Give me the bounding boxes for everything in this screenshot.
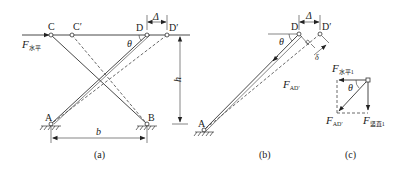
label-small-delta: δ: [315, 53, 319, 62]
node-D: [145, 33, 149, 37]
caption-c: (c): [345, 149, 356, 161]
label-theta-a: θ: [127, 38, 132, 49]
label-theta-b: θ: [279, 36, 284, 47]
member-ADprime-deformed: [204, 34, 320, 130]
node-C-prime: [70, 33, 74, 37]
truss-diagram: C C′ D D′ A B θ Δ h b F水平 (a): [0, 0, 404, 173]
label-force-horizontal1: F水平1: [331, 62, 354, 76]
label-D-prime: D′: [169, 22, 178, 33]
small-delta-ext-2: [322, 36, 329, 43]
label-D-prime-b: D′: [322, 21, 331, 32]
label-force-vertical1: F竖直1: [362, 114, 385, 127]
node-C: [49, 33, 53, 37]
small-delta-ext-1: [311, 44, 315, 48]
node-D-prime-b: [318, 32, 322, 36]
label-C-prime: C′: [73, 21, 82, 32]
node-D-b: [297, 32, 301, 36]
support-A: [40, 126, 61, 130]
theta-arc-c: [356, 80, 359, 88]
label-C: C: [48, 21, 55, 32]
label-force-ADprime-c: FAD′: [325, 114, 343, 127]
label-theta-c: θ: [348, 82, 353, 93]
support-A-b: [194, 132, 214, 136]
label-delta-b: Δ: [305, 10, 312, 21]
force-origin-node: [366, 78, 370, 82]
figure-a: C C′ D D′ A B θ Δ h b F水平 (a): [21, 11, 190, 161]
theta-arc-b: [289, 34, 292, 41]
figure-b: D D′ A θ Δ δ FAD′ (b): [194, 10, 331, 161]
label-B: B: [148, 112, 155, 123]
label-delta-a: Δ: [152, 11, 159, 22]
member-DA-outline: [54, 35, 150, 124]
label-h: h: [172, 77, 183, 82]
caption-b: (b): [259, 149, 271, 161]
label-force-ADprime-b: FAD′: [282, 78, 300, 91]
support-B: [136, 126, 157, 130]
caption-a: (a): [94, 149, 105, 161]
label-D: D: [136, 22, 143, 33]
figure-c: F水平1 θ FAD′ F竖直1 (c): [325, 62, 385, 161]
label-force-horizontal: F水平: [21, 38, 41, 52]
label-A-b: A: [198, 118, 206, 129]
label-A: A: [45, 112, 53, 123]
label-b: b: [96, 126, 101, 137]
node-D-prime: [165, 33, 169, 37]
label-D-b: D: [291, 21, 298, 32]
